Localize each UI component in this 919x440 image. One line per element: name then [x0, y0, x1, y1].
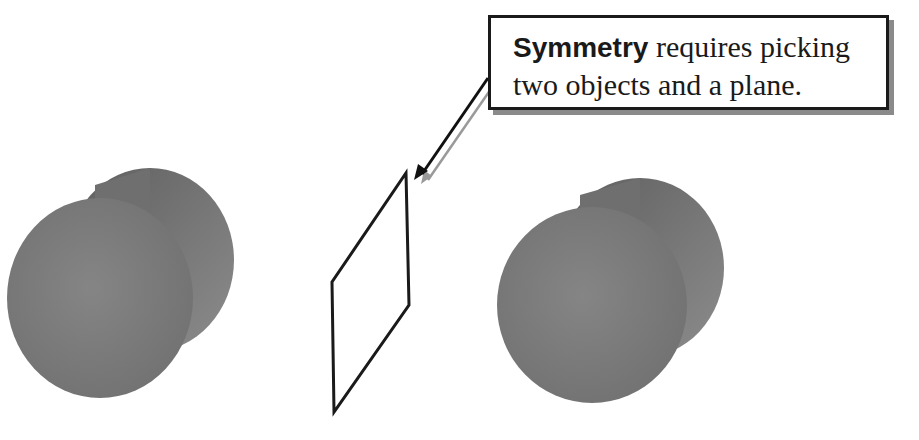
callout-arrow: [414, 78, 493, 184]
right-cylinder-face: [497, 207, 687, 403]
arrow-line: [422, 78, 488, 174]
plane-outline: [332, 173, 409, 412]
arrow-shadow: [428, 86, 493, 180]
callout-line-1-rest: requires picking: [648, 30, 850, 63]
left-cylinder[interactable]: [7, 168, 234, 398]
left-cylinder-face: [7, 198, 193, 398]
callout-box: Symmetry requires picking two objects an…: [488, 15, 889, 110]
symmetry-plane[interactable]: [332, 173, 409, 412]
callout-line-2: two objects and a plane.: [513, 66, 886, 103]
callout-line-1: Symmetry requires picking: [513, 28, 886, 66]
callout-bold-term: Symmetry: [513, 32, 648, 63]
right-cylinder[interactable]: [497, 178, 724, 403]
